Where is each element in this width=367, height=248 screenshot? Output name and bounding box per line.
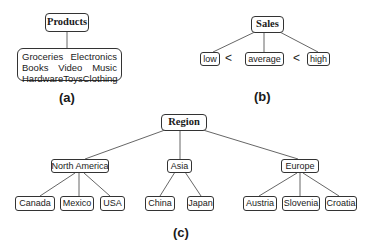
- category-item: Books: [22, 62, 48, 73]
- country-japan-node: Japan: [187, 196, 214, 211]
- category-item: Video: [58, 62, 82, 73]
- category-item: Groceries: [22, 51, 63, 62]
- category-item: Hardware: [22, 73, 63, 84]
- category-item: Electronics: [71, 51, 117, 62]
- category-item: Clothing: [83, 73, 118, 84]
- less-than-symbol: <: [293, 51, 300, 65]
- caption-a: (a): [59, 90, 75, 105]
- level-low-node: low: [200, 52, 220, 66]
- product-categories-box: Groceries Electronics Books Video Music …: [17, 48, 122, 81]
- category-row: Books Video Music: [22, 62, 117, 73]
- caption-b: (b): [254, 89, 271, 104]
- country-mexico-node: Mexico: [60, 196, 94, 211]
- region-node: Region: [161, 114, 207, 131]
- category-item: Music: [92, 62, 117, 73]
- country-croatia-node: Croatia: [325, 196, 357, 211]
- category-row: Groceries Electronics: [22, 51, 117, 62]
- category-row: Hardware Toys Clothing: [22, 73, 117, 84]
- country-canada-node: Canada: [15, 196, 55, 211]
- level-high-node: high: [307, 52, 330, 66]
- level-average-node: average: [245, 52, 284, 66]
- less-than-symbol: <: [225, 51, 232, 65]
- continent-north-america-node: North America: [51, 159, 109, 173]
- sales-node: Sales: [251, 16, 284, 33]
- caption-c: (c): [173, 225, 189, 240]
- country-usa-node: USA: [100, 196, 125, 211]
- country-austria-node: Austria: [243, 196, 277, 211]
- continent-asia-node: Asia: [167, 159, 192, 173]
- products-node: Products: [45, 13, 89, 32]
- country-china-node: China: [145, 196, 175, 211]
- continent-europe-node: Europe: [281, 159, 319, 173]
- category-item: Toys: [63, 73, 83, 84]
- country-slovenia-node: Slovenia: [282, 196, 320, 211]
